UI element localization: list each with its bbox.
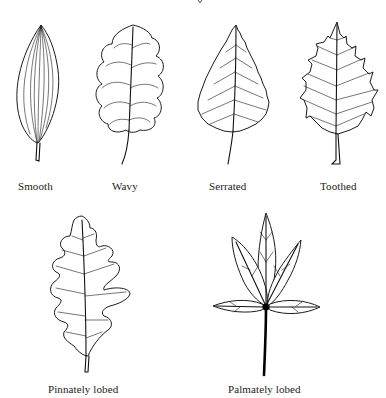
label-wavy: Wavy [112, 180, 138, 192]
leaf-margin-diagram: Smooth Wavy Serrated Toothed Pinnately l… [0, 0, 386, 398]
label-pinnately-lobed: Pinnately lobed [48, 383, 118, 395]
label-serrated: Serrated [209, 180, 246, 192]
label-smooth: Smooth [18, 180, 53, 192]
palmately-lobed-leaf-illustration [0, 0, 386, 398]
label-toothed: Toothed [320, 180, 357, 192]
label-palmately-lobed: Palmately lobed [228, 383, 301, 395]
